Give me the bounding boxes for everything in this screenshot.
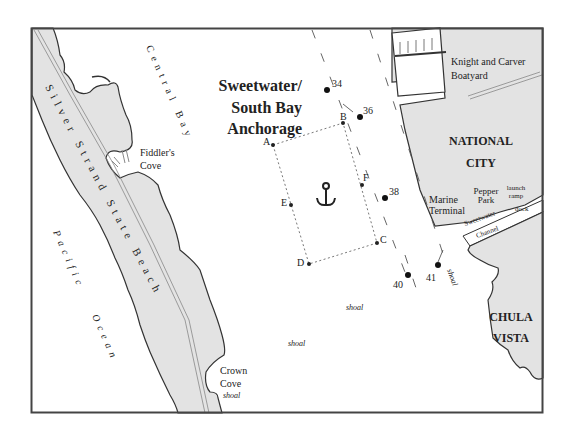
buoy-34-label: 34: [332, 78, 342, 89]
label-marine-1: Marine: [429, 194, 458, 205]
label-national-city-1: NATIONAL: [449, 134, 513, 148]
buoy-40-label: 40: [393, 279, 403, 290]
label-chula-1: CHULA: [489, 310, 533, 324]
shoal-center: shoal: [346, 303, 364, 312]
label-F: F: [363, 172, 369, 183]
label-launch-1: launch: [507, 184, 526, 192]
buoy-41: [435, 262, 441, 268]
anchor-icon: [317, 183, 335, 205]
label-national-city-2: CITY: [466, 156, 496, 170]
point-D: [307, 262, 311, 266]
label-launch-2: ramp: [509, 192, 524, 200]
buoy-34: [324, 87, 330, 93]
shoal-chula: shoal: [445, 268, 460, 288]
label-dock: dock: [515, 205, 529, 213]
label-E: E: [281, 197, 287, 208]
spit: [92, 76, 110, 82]
label-C: C: [380, 234, 387, 245]
label-chula-2: VISTA: [493, 331, 529, 345]
label-fiddlers-2: Cove: [140, 160, 162, 171]
point-C: [375, 241, 379, 245]
label-B: B: [340, 111, 347, 122]
label-pacific: Pacific: [51, 227, 87, 290]
buoy-38-label: 38: [389, 186, 399, 197]
buoy-36-label: 36: [363, 105, 373, 116]
label-D: D: [297, 257, 304, 268]
label-crown-1: Crown: [220, 365, 247, 376]
label-knight-carver-2: Boatyard: [451, 70, 488, 81]
label-marine-2: Terminal: [429, 205, 465, 216]
buoy-38: [382, 195, 388, 201]
title-line-2: South Bay: [231, 99, 302, 117]
buoy-41-tick: [438, 250, 443, 262]
buoy-41-label: 41: [426, 272, 436, 283]
label-A: A: [263, 136, 271, 147]
label-central-bay: Central Bay: [144, 43, 196, 142]
buoy-40: [405, 272, 411, 278]
label-fiddlers-1: Fiddler's: [140, 147, 175, 158]
nautical-map: Sweetwater/ South Bay Anchorage A B C D …: [0, 0, 570, 436]
pier-basin: [392, 28, 445, 96]
label-ocean: Ocean: [90, 312, 121, 363]
shoal-crown-cove: shoal: [223, 391, 241, 400]
label-pepper-2: Park: [478, 195, 495, 205]
point-A: [271, 143, 275, 147]
point-E: [289, 203, 293, 207]
label-crown-2: Cove: [220, 378, 242, 389]
shoal-lower: shoal: [288, 339, 306, 348]
title-line-1: Sweetwater/: [218, 77, 302, 94]
label-knight-carver-1: Knight and Carver: [451, 56, 526, 67]
point-F: [360, 183, 364, 187]
anchorage-title: Sweetwater/ South Bay Anchorage: [218, 77, 302, 138]
